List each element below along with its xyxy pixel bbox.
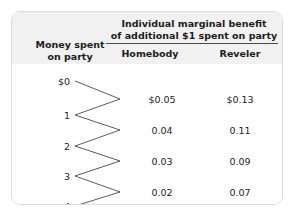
money-level-4: 4 — [20, 201, 70, 205]
table-header-band: Money spent on party Individual marginal… — [12, 12, 282, 65]
connector-1-to-row-1 — [75, 115, 120, 130]
benefit-header-line-2: of additional $1 spent on party — [104, 30, 283, 42]
money-level-3: 3 — [20, 171, 70, 182]
reveler-value-row-1: 0.11 — [198, 125, 282, 136]
homebody-value-row-0: $0.05 — [125, 94, 199, 105]
marginal-benefit-figure-card: Money spent on party Individual marginal… — [11, 11, 283, 205]
connector-3-to-row-3 — [75, 176, 120, 192]
benefit-header-line-1: Individual marginal benefit — [104, 18, 283, 30]
money-level-0: $0 — [20, 76, 70, 87]
connector-0-to-row-0 — [75, 81, 120, 99]
money-level-2: 2 — [20, 141, 70, 152]
homebody-value-row-2: 0.03 — [125, 156, 199, 167]
homebody-column-header: Homebody — [108, 48, 192, 60]
connector-row-2-to-3 — [75, 161, 120, 176]
reveler-value-row-2: 0.09 — [198, 156, 282, 167]
reveler-value-row-3: 0.07 — [198, 187, 282, 198]
homebody-value-row-3: 0.02 — [125, 187, 199, 198]
reveler-value-row-0: $0.13 — [198, 94, 282, 105]
connector-row-1-to-2 — [75, 130, 120, 146]
header-divider-rule — [106, 43, 278, 44]
money-level-1: 1 — [20, 110, 70, 121]
connector-row-3-to-4 — [75, 192, 120, 205]
homebody-value-row-1: 0.04 — [125, 125, 199, 136]
reveler-column-header: Reveler — [198, 48, 282, 60]
connector-2-to-row-2 — [75, 146, 120, 161]
connector-row-0-to-1 — [75, 99, 120, 115]
table-body: $0 1 2 3 4 $0.05 0.04 0.03 0.02 $0.13 0.… — [12, 64, 282, 205]
benefit-group-header: Individual marginal benefit of additiona… — [104, 18, 283, 41]
